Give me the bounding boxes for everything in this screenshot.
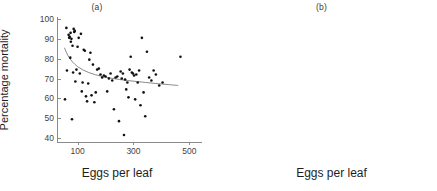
panel-a-data-point (88, 58, 91, 61)
panel-a-data-point (158, 84, 161, 87)
panel-a-data-point (128, 68, 131, 71)
figure-container: (a) Percentage mortality Eggs per leaf 4… (0, 0, 437, 191)
panel-a-data-point (118, 120, 121, 123)
panel-a-data-point (74, 80, 77, 83)
panel-a-data-point (113, 108, 116, 111)
panel-a-data-point (89, 51, 92, 54)
panel-a-data-point (75, 68, 78, 71)
panel-a-data-point (80, 90, 83, 93)
panel-a-data-point (122, 72, 125, 75)
panel-a-plot-area: 405060708090100100300500 (57, 17, 202, 143)
panel-a-data-point (104, 75, 107, 78)
panel-a: (a) Percentage mortality Eggs per leaf 4… (0, 0, 218, 191)
panel-a-data-point (86, 100, 89, 103)
panel-a-data-point (120, 77, 123, 80)
panel-a-data-point (69, 56, 72, 59)
panel-a-data-point (119, 70, 122, 73)
panel-a-data-point (81, 81, 84, 84)
panel-a-data-point (69, 32, 72, 35)
panel-a-y-tick-label: 70 (45, 74, 54, 84)
panel-a-x-tick-mark (78, 142, 79, 145)
panel-a-data-point (155, 73, 158, 76)
panel-a-data-point (66, 69, 69, 72)
panel-a-y-tick-mark (58, 138, 61, 139)
panel-a-data-point (85, 95, 88, 98)
panel-a-y-tick-label: 60 (45, 93, 54, 103)
panel-a-data-point (70, 41, 73, 44)
panel-a-y-tick-mark (58, 118, 61, 119)
panel-a-data-point (152, 69, 155, 72)
panel-a-data-point (106, 90, 109, 93)
panel-a-data-point (90, 94, 93, 97)
panel-a-data-point (125, 88, 128, 91)
panel-a-x-tick-mark (189, 142, 190, 145)
panel-a-y-tick-label: 80 (45, 54, 54, 64)
panel-a-data-point (101, 76, 104, 79)
panel-a-data-point (146, 50, 149, 53)
panel-a-data-point (73, 30, 76, 33)
panel-a-y-tick-label: 90 (45, 34, 54, 44)
panel-a-data-point (84, 49, 87, 52)
panel-a-data-point (77, 37, 80, 40)
panel-a-y-tick-label: 100 (40, 14, 54, 24)
panel-a-data-point (98, 67, 101, 70)
panel-a-y-tick-mark (58, 79, 61, 80)
panel-a-x-tick-mark (133, 142, 134, 145)
panel-b: (b) Eggs per leaf 0204060801003080130 (218, 0, 437, 191)
panel-a-data-point (126, 81, 129, 84)
panel-a-data-point (108, 77, 111, 80)
panel-a-title: (a) (0, 2, 206, 12)
panel-a-data-point (94, 91, 97, 94)
panel-a-data-point (68, 36, 71, 39)
panel-a-data-point (109, 72, 112, 75)
panel-a-x-tick-label: 100 (70, 146, 84, 156)
panel-a-data-point (93, 101, 96, 104)
panel-a-y-tick-label: 40 (45, 133, 54, 143)
panel-a-data-point (142, 91, 145, 94)
panel-a-data-point (87, 82, 90, 85)
panel-a-data-point (76, 45, 79, 48)
panel-a-y-tick-label: 50 (45, 113, 54, 123)
panel-a-data-point (65, 27, 68, 30)
panel-a-data-point (72, 71, 75, 74)
panel-a-data-point (150, 79, 153, 82)
panel-a-y-axis-label: Percentage mortality (0, 30, 10, 131)
panel-a-x-axis-label: Eggs per leaf (8, 166, 226, 180)
panel-a-data-point (179, 55, 182, 58)
panel-a-x-tick-label: 500 (182, 146, 196, 156)
panel-b-x-axis-label: Eggs per leaf (222, 166, 437, 180)
panel-a-data-point (133, 74, 136, 77)
panel-a-data-point (64, 98, 67, 101)
panel-a-data-point (79, 72, 82, 75)
panel-a-data-point (148, 76, 151, 79)
panel-a-data-point (135, 73, 138, 76)
panel-a-data-point (71, 44, 74, 47)
panel-a-fit-line (64, 48, 178, 86)
panel-a-data-point (139, 104, 142, 107)
panel-a-y-tick-mark (58, 98, 61, 99)
panel-a-x-tick-label: 300 (126, 146, 140, 156)
panel-a-y-tick-mark (58, 59, 61, 60)
panel-a-data-point (136, 81, 139, 84)
panel-a-data-point (127, 96, 130, 99)
panel-a-data-point (111, 79, 114, 82)
panel-a-data-point (70, 38, 73, 41)
panel-a-data-point (92, 63, 95, 66)
panel-a-data-point (161, 81, 164, 84)
panel-a-data-point (134, 98, 137, 101)
panel-a-data-point (124, 78, 127, 81)
panel-a-y-tick-mark (58, 39, 61, 40)
panel-a-data-point (99, 73, 102, 76)
panel-a-data-point (123, 134, 126, 137)
panel-a-data-layer (58, 17, 203, 143)
panel-b-title: (b) (212, 2, 431, 12)
panel-a-data-point (80, 33, 83, 36)
panel-a-data-point (141, 37, 144, 40)
panel-a-y-tick-mark (58, 19, 61, 20)
panel-a-data-point (144, 115, 147, 118)
panel-a-data-point (138, 69, 141, 72)
panel-a-data-point (129, 55, 132, 58)
panel-a-data-point (71, 118, 74, 121)
panel-a-data-point (116, 75, 119, 78)
